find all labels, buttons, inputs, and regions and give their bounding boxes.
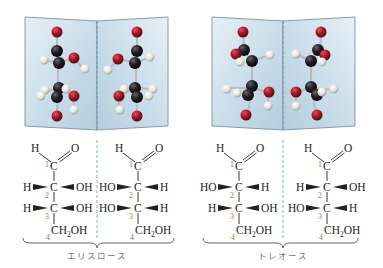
- brace-threose: [203, 238, 358, 248]
- c4-group: CH2OH: [135, 224, 171, 239]
- c3-right-substituent: OH: [76, 202, 93, 214]
- locant-2: 2: [45, 191, 49, 200]
- c3-left-substituent: H: [208, 202, 216, 214]
- locant-2: 2: [318, 191, 322, 200]
- locant-1: 1: [318, 160, 322, 169]
- locant-2: 2: [129, 191, 133, 200]
- mirror-panel-erythrose: [25, 17, 168, 130]
- locant-3: 3: [45, 212, 49, 221]
- aldehyde-h: H: [115, 142, 123, 154]
- c2-left-substituent: HO: [200, 181, 217, 193]
- aldehyde-h: H: [304, 142, 312, 154]
- locant-1: 1: [129, 160, 133, 169]
- aldehyde-o: O: [155, 142, 163, 154]
- aldehyde-h: H: [31, 142, 39, 154]
- c2-right-substituent: H: [160, 181, 168, 193]
- locant-2: 2: [230, 191, 234, 200]
- aldehyde-o: O: [344, 142, 352, 154]
- fischer-projection-threose-right: H O C 1 C 2 H OH C 3 HO H CH2OH 4: [288, 142, 366, 242]
- locant-4: 4: [319, 233, 323, 242]
- locant-3: 3: [129, 212, 133, 221]
- carbon-2: C: [134, 181, 142, 193]
- carbon-1: C: [323, 160, 331, 172]
- carbon-2: C: [323, 181, 331, 193]
- carbon-1: C: [50, 160, 58, 172]
- figure-canvas: H O C 1 C 2 H OH C 3 H OH CH2OH 4 H O C …: [0, 0, 383, 268]
- locant-4: 4: [130, 233, 134, 242]
- c3-left-substituent: HO: [99, 202, 116, 214]
- carbon-3: C: [134, 202, 142, 214]
- c2-left-substituent: H: [23, 181, 31, 193]
- c4-group: CH2OH: [236, 224, 272, 239]
- fischer-projection-erythrose-right: H O C 1 C 2 HO H C 3 HO H CH2OH 4: [99, 142, 171, 242]
- aldehyde-o: O: [256, 142, 264, 154]
- carbon-3: C: [50, 202, 58, 214]
- c3-right-substituent: H: [349, 202, 357, 214]
- locant-4: 4: [46, 233, 50, 242]
- c2-right-substituent: OH: [76, 181, 93, 193]
- c2-right-substituent: H: [261, 181, 269, 193]
- c2-right-substituent: OH: [349, 181, 366, 193]
- carbon-3: C: [235, 202, 243, 214]
- fischer-projection-threose-left: H O C 1 C 2 HO H C 3 H OH CH2OH 4: [200, 142, 278, 242]
- locant-1: 1: [230, 160, 234, 169]
- c2-left-substituent: H: [296, 181, 304, 193]
- locant-3: 3: [318, 212, 322, 221]
- c3-right-substituent: H: [160, 202, 168, 214]
- aldehyde-o: O: [71, 142, 79, 154]
- locant-3: 3: [230, 212, 234, 221]
- c3-right-substituent: OH: [261, 202, 278, 214]
- c3-left-substituent: HO: [288, 202, 305, 214]
- c3-left-substituent: H: [23, 202, 31, 214]
- locant-1: 1: [45, 160, 49, 169]
- carbon-3: C: [323, 202, 331, 214]
- caption-erythrose: エリスロース: [67, 251, 127, 261]
- carbon-1: C: [134, 160, 142, 172]
- locant-4: 4: [231, 233, 235, 242]
- c2-left-substituent: HO: [99, 181, 116, 193]
- carbon-2: C: [235, 181, 243, 193]
- carbon-1: C: [235, 160, 243, 172]
- carbon-2: C: [50, 181, 58, 193]
- mirror-panel-threose: [212, 17, 355, 130]
- c4-group: CH2OH: [324, 224, 360, 239]
- c4-group: CH2OH: [51, 224, 87, 239]
- aldehyde-h: H: [216, 142, 224, 154]
- fischer-projection-erythrose-left: H O C 1 C 2 H OH C 3 H OH CH2OH 4: [23, 142, 93, 242]
- caption-threose: トレオース: [258, 251, 308, 261]
